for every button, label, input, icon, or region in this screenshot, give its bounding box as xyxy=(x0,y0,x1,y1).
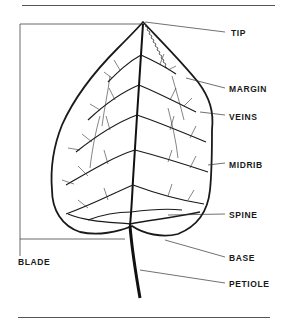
label-base: BASE xyxy=(229,253,255,263)
petiole xyxy=(130,226,140,298)
label-margin: MARGIN xyxy=(229,84,267,94)
blade-bracket xyxy=(20,24,140,256)
label-tip: TIP xyxy=(231,28,246,38)
label-petiole: PETIOLE xyxy=(229,279,270,289)
label-blade: BLADE xyxy=(18,257,50,267)
label-spine: SPINE xyxy=(229,210,258,220)
basal-curves xyxy=(68,212,200,224)
label-veins: VEINS xyxy=(229,112,258,122)
tertiary-veins xyxy=(62,54,196,208)
label-midrib: MIDRIB xyxy=(229,160,263,170)
midrib xyxy=(130,24,143,226)
secondary-veins xyxy=(66,55,208,220)
